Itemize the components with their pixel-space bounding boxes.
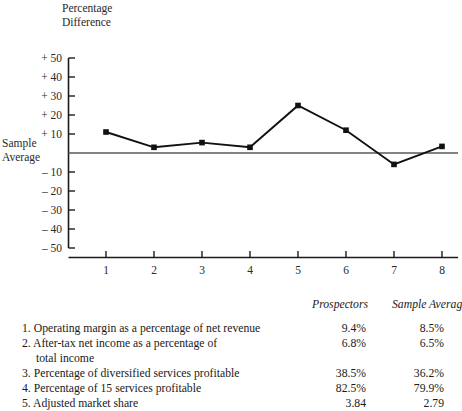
table-row: 4. Percentage of 15 services profitable … xyxy=(0,382,460,396)
metrics-table: Prospectors Sample Averag 1. Operating m… xyxy=(0,296,460,408)
table-row: 1. Operating margin as a percentage of n… xyxy=(0,322,460,336)
data-point-3 xyxy=(199,140,205,146)
table-row: 3. Percentage of diversified services pr… xyxy=(0,367,460,381)
data-point-markers xyxy=(103,103,445,168)
table-row-label-continuation: total income xyxy=(36,352,94,365)
table-row-label: 3. Percentage of diversified services pr… xyxy=(22,367,239,380)
table-cell-sample-average: 8.5% xyxy=(378,322,444,335)
table-row-continuation: total income xyxy=(0,352,460,366)
table-cell-sample-average: 79.9% xyxy=(378,382,444,395)
table-cell-prospectors: 9.4% xyxy=(300,322,366,335)
line-chart-plot xyxy=(0,0,460,296)
data-point-8 xyxy=(439,144,445,150)
table-cell-sample-average: 36.2% xyxy=(378,367,444,380)
table-row-label: 4. Percentage of 15 services profitable xyxy=(22,382,201,395)
table-row-label: 1. Operating margin as a percentage of n… xyxy=(22,322,260,335)
table-row-label: 5. Adjusted market share xyxy=(22,397,138,410)
data-point-6 xyxy=(343,127,349,133)
data-point-2 xyxy=(151,145,157,151)
table-header-prospectors: Prospectors xyxy=(312,298,368,311)
table-header-row: Prospectors Sample Averag xyxy=(0,296,460,316)
table-header-sample-average: Sample Averag xyxy=(392,298,462,311)
table-cell-prospectors: 3.84 xyxy=(300,397,366,410)
data-point-1 xyxy=(103,129,109,135)
data-point-4 xyxy=(247,145,253,151)
table-cell-sample-average: 6.5% xyxy=(378,337,444,350)
table-cell-prospectors: 6.8% xyxy=(300,337,366,350)
data-line xyxy=(106,106,442,165)
table-cell-prospectors: 82.5% xyxy=(300,382,366,395)
table-cell-sample-average: 2.79 xyxy=(378,397,444,410)
table-cell-prospectors: 38.5% xyxy=(300,367,366,380)
data-point-5 xyxy=(295,103,301,109)
data-point-7 xyxy=(391,162,397,168)
table-row: 5. Adjusted market share 3.84 2.79 xyxy=(0,397,460,411)
table-row: 2. After-tax net income as a percentage … xyxy=(0,337,460,351)
table-row-label: 2. After-tax net income as a percentage … xyxy=(22,337,217,350)
